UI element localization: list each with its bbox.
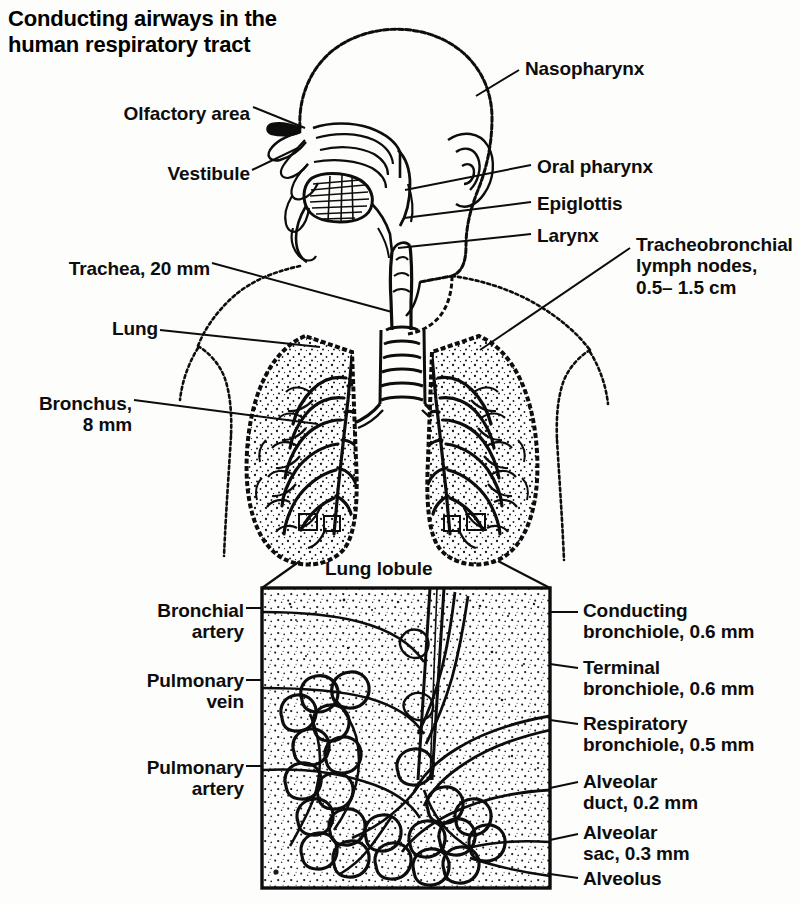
left-lung: [247, 336, 372, 564]
label-pulmonary-vein: Pulmonary vein: [137, 670, 244, 713]
label-bronchus: Bronchus, 8 mm: [37, 393, 132, 436]
label-oral-pharynx: Oral pharynx: [537, 156, 653, 177]
label-nasopharynx: Nasopharynx: [525, 58, 644, 79]
leader-alveolar-duct: [550, 782, 578, 788]
label-respiratory-bronchiole: Respiratory bronchiole, 0.5 mm: [583, 713, 754, 756]
leader-alveolar-sac: [550, 834, 578, 840]
label-larynx: Larynx: [537, 225, 599, 246]
leader-oral-pharynx: [405, 165, 531, 190]
label-olfactory-area: Olfactory area: [118, 103, 250, 124]
leader-lymph-nodes: [480, 248, 630, 350]
respiratory-tract-illustration: [0, 0, 800, 903]
label-alveolus: Alveolus: [583, 868, 661, 889]
label-terminal-bronchiole: Terminal bronchiole, 0.6 mm: [583, 657, 754, 700]
label-vestibule: Vestibule: [160, 163, 250, 184]
label-epiglottis: Epiglottis: [537, 193, 623, 214]
leader-trachea: [212, 263, 392, 312]
right-lung: [412, 336, 537, 564]
label-lung: Lung: [108, 318, 158, 339]
label-bronchial-artery: Bronchial artery: [152, 600, 244, 643]
leader-alveolus: [550, 874, 578, 878]
trachea-rings: [380, 327, 425, 404]
leader-vestibule: [252, 148, 298, 170]
label-conducting-bronchiole: Conducting bronchiole, 0.6 mm: [583, 600, 754, 643]
label-tracheobronchial-lymph-nodes: Tracheobronchial lymph nodes, 0.5– 1.5 c…: [636, 234, 793, 298]
tongue: [304, 174, 372, 223]
label-trachea: Trachea, 20 mm: [66, 258, 210, 279]
leader-larynx: [398, 234, 531, 248]
label-pulmonary-artery: Pulmonary artery: [137, 757, 244, 800]
caption-lung-lobule: Lung lobule: [325, 558, 433, 580]
leader-epiglottis: [404, 202, 531, 218]
leader-respiratory-bronchiole: [550, 720, 578, 724]
figure-page: Conducting airways in the human respirat…: [0, 0, 800, 903]
torso-outline: [180, 266, 608, 560]
leader-terminal-bronchiole: [550, 664, 578, 668]
label-alveolar-sac: Alveolar sac, 0.3 mm: [583, 822, 690, 865]
label-alveolar-duct: Alveolar duct, 0.2 mm: [583, 771, 698, 814]
leader-nasopharynx: [476, 70, 519, 96]
lung-lobule-panel: [262, 588, 550, 888]
